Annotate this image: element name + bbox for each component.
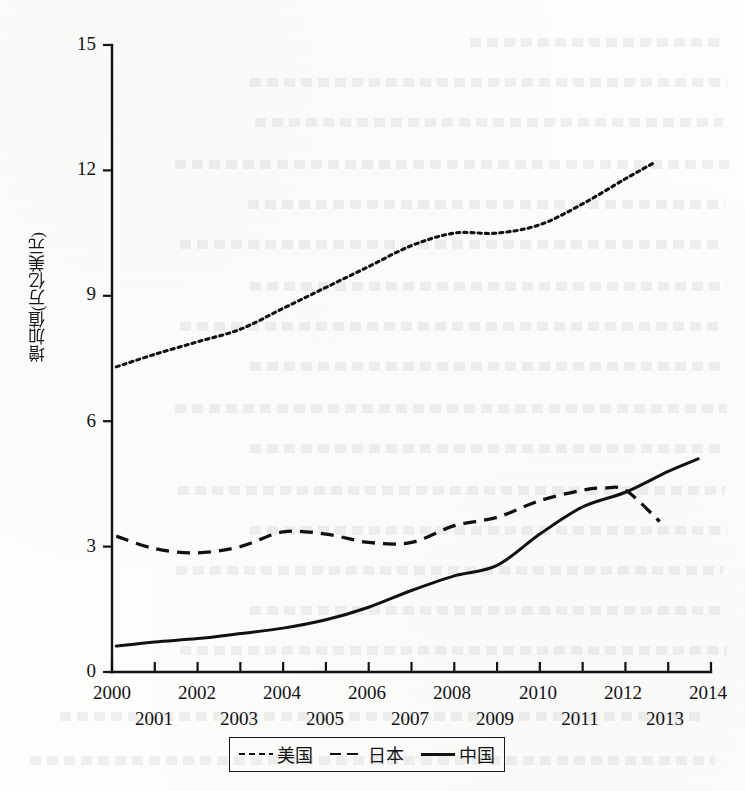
plot-area xyxy=(0,0,745,791)
series-line-japan xyxy=(116,487,659,553)
scanned-page: 增加值(万亿美元) 15 12 9 6 3 0 2000 2002 2004 2… xyxy=(0,0,745,791)
x-axis-ticks xyxy=(112,662,711,672)
legend-swatch-solid-icon xyxy=(421,753,455,756)
legend-item-usa: 美国 xyxy=(239,741,313,767)
y-axis-ticks xyxy=(103,45,112,672)
legend-swatch-dotted-icon xyxy=(239,753,273,756)
legend-label-usa: 美国 xyxy=(277,741,313,767)
series-line-usa xyxy=(116,162,655,367)
line-chart-figure: 增加值(万亿美元) 15 12 9 6 3 0 2000 2002 2004 2… xyxy=(0,0,745,791)
legend-item-japan: 日本 xyxy=(330,741,404,767)
legend-swatch-dashed-icon xyxy=(330,753,364,756)
chart-legend: 美国 日本 中国 xyxy=(229,737,505,772)
legend-item-china: 中国 xyxy=(421,741,495,767)
legend-label-japan: 日本 xyxy=(368,741,404,767)
legend-label-china: 中国 xyxy=(459,741,495,767)
